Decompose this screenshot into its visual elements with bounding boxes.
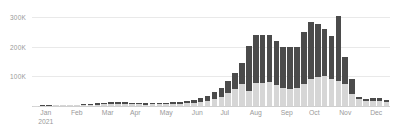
bar-w30[interactable]	[232, 73, 238, 106]
x-axis-year: 2021	[38, 117, 53, 126]
bar-w4[interactable]	[53, 105, 59, 106]
bar-segment-lower	[184, 103, 190, 106]
x-tick-label-mar: Mar	[102, 108, 114, 117]
bar-w52[interactable]	[384, 100, 390, 106]
bar-w11[interactable]	[101, 103, 107, 106]
bar-w14[interactable]	[122, 102, 128, 106]
bar-w45[interactable]	[336, 16, 342, 106]
bar-w5[interactable]	[60, 105, 66, 106]
bar-w15[interactable]	[129, 103, 135, 106]
bar-w43[interactable]	[322, 29, 328, 106]
bar-segment-lower	[342, 84, 348, 106]
bar-segment-lower	[287, 89, 293, 106]
y-tick-label-300k: 300K	[10, 14, 26, 21]
x-tick-month: May	[160, 109, 173, 116]
x-tick-month: Nov	[339, 109, 351, 116]
bar-segment-lower	[170, 104, 176, 106]
bar-w34[interactable]	[260, 35, 266, 106]
bar-segment-lower	[253, 83, 259, 106]
bar-w7[interactable]	[74, 105, 80, 106]
bar-w37[interactable]	[280, 47, 286, 106]
bar-segment-upper	[301, 32, 307, 84]
bar-w41[interactable]	[308, 22, 314, 106]
bar-segment-upper	[287, 47, 293, 89]
bar-segment-upper	[336, 16, 342, 81]
bar-segment-lower	[274, 85, 280, 106]
bar-w18[interactable]	[150, 103, 156, 106]
bar-w3[interactable]	[46, 105, 52, 106]
bar-segment-upper	[342, 57, 348, 84]
bar-segment-lower	[150, 104, 156, 106]
bar-segment-upper	[315, 24, 321, 77]
bar-segment-upper	[239, 63, 245, 84]
bar-segment-lower	[108, 104, 114, 106]
bar-w42[interactable]	[315, 24, 321, 106]
x-tick-month: Feb	[71, 109, 83, 116]
bar-w44[interactable]	[329, 36, 335, 106]
bar-segment-upper	[280, 47, 286, 87]
bar-w20[interactable]	[163, 103, 169, 106]
x-tick-label-jan: Jan2021	[38, 108, 53, 126]
bar-segment-lower	[246, 91, 252, 106]
bar-w21[interactable]	[170, 102, 176, 106]
x-tick-label-jun: Jun	[192, 108, 203, 117]
bar-w16[interactable]	[136, 103, 142, 106]
bar-w46[interactable]	[342, 57, 348, 106]
bar-w2[interactable]	[40, 105, 46, 106]
x-tick-label-sep: Sep	[281, 108, 293, 117]
bar-w32[interactable]	[246, 45, 252, 106]
bar-w13[interactable]	[115, 102, 121, 106]
bar-w8[interactable]	[81, 104, 87, 106]
bar-segment-upper	[267, 35, 273, 82]
bar-segment-lower	[267, 82, 273, 106]
bar-segment-lower	[239, 84, 245, 106]
bar-segment-lower	[95, 105, 101, 106]
bar-segment-lower	[101, 104, 107, 106]
bar-w12[interactable]	[108, 102, 114, 106]
bar-w17[interactable]	[143, 103, 149, 106]
bar-w51[interactable]	[377, 98, 383, 106]
x-tick-month: Oct	[309, 109, 320, 116]
bar-segment-lower	[219, 97, 225, 106]
plot-area	[32, 17, 390, 106]
bar-w49[interactable]	[363, 99, 369, 106]
x-tick-label-apr: Apr	[130, 108, 141, 117]
bar-w40[interactable]	[301, 32, 307, 106]
bar-segment-lower	[136, 104, 142, 106]
x-tick-month: Jul	[220, 109, 229, 116]
bar-segment-upper	[253, 35, 259, 83]
bar-segment-lower	[88, 105, 94, 106]
bar-w47[interactable]	[349, 79, 355, 106]
bar-w9[interactable]	[88, 104, 94, 106]
bar-w26[interactable]	[205, 96, 211, 106]
bar-segment-upper	[260, 35, 266, 82]
bar-w10[interactable]	[95, 103, 101, 106]
bar-w29[interactable]	[225, 81, 231, 107]
bar-segment-upper	[349, 79, 355, 94]
bar-w23[interactable]	[184, 101, 190, 106]
bar-w22[interactable]	[177, 102, 183, 106]
bar-w19[interactable]	[157, 103, 163, 106]
bar-w6[interactable]	[67, 105, 73, 106]
bar-w28[interactable]	[219, 88, 225, 106]
bar-w25[interactable]	[198, 98, 204, 106]
bar-w35[interactable]	[267, 35, 273, 106]
bar-w39[interactable]	[294, 47, 300, 106]
x-axis-line	[32, 106, 390, 107]
bar-w33[interactable]	[253, 35, 259, 106]
bar-w36[interactable]	[274, 41, 280, 106]
bar-segment-lower	[60, 105, 66, 106]
bar-series-group	[32, 17, 390, 106]
bar-segment-lower	[294, 88, 300, 106]
bar-w27[interactable]	[212, 92, 218, 106]
x-tick-label-oct: Oct	[309, 108, 320, 117]
bar-w24[interactable]	[191, 100, 197, 106]
bar-segment-lower	[356, 99, 362, 106]
bar-w50[interactable]	[370, 98, 376, 106]
bar-w31[interactable]	[239, 63, 245, 106]
bar-segment-lower	[329, 79, 335, 106]
bar-w38[interactable]	[287, 47, 293, 106]
x-tick-label-feb: Feb	[71, 108, 83, 117]
y-axis-labels: 300K 200K 100K	[0, 17, 30, 106]
bar-w48[interactable]	[356, 97, 362, 106]
